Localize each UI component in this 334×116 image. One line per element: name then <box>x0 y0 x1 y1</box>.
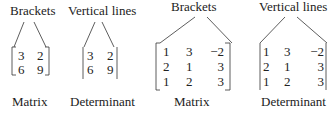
brackets-label: Brackets <box>10 4 55 17</box>
determinant-label: Determinant <box>70 95 135 108</box>
matrix-label: Matrix <box>12 95 47 108</box>
brackets-label-large: Brackets <box>171 0 216 13</box>
determinant-label-large: Determinant <box>261 95 326 108</box>
matrix-label-large: Matrix <box>174 95 209 108</box>
vertical-lines-label: Vertical lines <box>68 4 136 17</box>
vertical-lines-label-large: Vertical lines <box>259 0 327 13</box>
